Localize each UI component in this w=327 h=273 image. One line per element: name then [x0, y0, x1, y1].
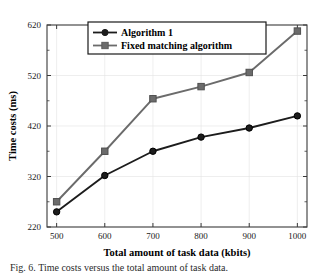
y-tick-label: 220 — [28, 222, 42, 232]
legend-marker-square-icon — [102, 42, 108, 48]
data-point-square — [198, 83, 204, 89]
data-point-circle — [102, 172, 108, 178]
y-tick-label: 620 — [28, 20, 42, 30]
x-tick-label: 700 — [146, 231, 160, 241]
x-tick-label: 500 — [50, 231, 64, 241]
x-tick-label: 1000 — [288, 231, 307, 241]
figure-container: 220320420520620 5006007008009001000 Time… — [0, 0, 327, 273]
data-point-square — [294, 28, 300, 34]
data-point-circle — [294, 113, 300, 119]
x-tick-label: 800 — [194, 231, 208, 241]
data-point-square — [102, 148, 108, 154]
data-point-square — [150, 96, 156, 102]
x-axis-title: Total amount of task data (kbits) — [104, 247, 251, 259]
legend-label-fixed-matching-algorithm: Fixed matching algorithm — [121, 40, 233, 51]
x-tick-label: 900 — [242, 231, 256, 241]
chart-legend: Algorithm 1 Fixed matching algorithm — [88, 22, 266, 54]
y-axis-title: Time costs (ms) — [7, 91, 19, 161]
x-tick-label: 600 — [98, 231, 112, 241]
y-tick-label: 320 — [28, 172, 42, 182]
legend-label-algorithm-1: Algorithm 1 — [121, 27, 173, 38]
figure-caption: Fig. 6. Time costs versus the total amou… — [10, 262, 228, 273]
y-tick-label: 520 — [28, 71, 42, 81]
y-tick-label: 420 — [28, 121, 42, 131]
data-point-circle — [150, 148, 156, 154]
data-point-circle — [198, 134, 204, 140]
data-point-circle — [53, 209, 59, 215]
legend-marker-circle-icon — [102, 29, 108, 35]
data-point-square — [246, 69, 252, 75]
x-axis-tick-labels: 5006007008009001000 — [50, 231, 307, 241]
line-chart: 220320420520620 5006007008009001000 Time… — [0, 0, 327, 273]
data-point-square — [53, 199, 59, 205]
y-axis-tick-labels: 220320420520620 — [28, 20, 42, 232]
data-point-circle — [246, 125, 252, 131]
